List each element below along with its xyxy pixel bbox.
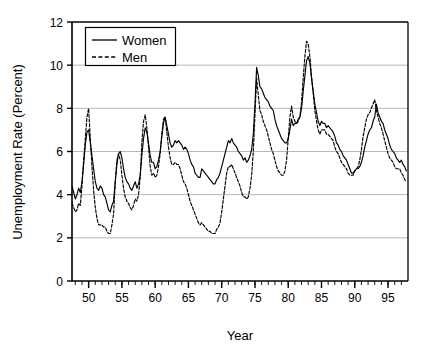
x-tick-label: 85	[315, 291, 329, 305]
legend-label-men: Men	[122, 50, 147, 65]
y-tick-label: 10	[50, 59, 64, 73]
y-tick-label: 2	[56, 231, 63, 245]
y-tick-label: 6	[56, 145, 63, 159]
chart-page: 024681012 50556065707580859095 Women Men…	[0, 0, 427, 354]
x-tick-label: 70	[215, 291, 229, 305]
y-tick-label: 0	[56, 275, 63, 289]
x-tick-label: 90	[348, 291, 362, 305]
x-tick-label: 95	[381, 291, 395, 305]
legend-label-women: Women	[122, 33, 167, 48]
y-tick-label: 8	[56, 102, 63, 116]
x-tick-label: 60	[148, 291, 162, 305]
x-tick-label: 50	[82, 291, 96, 305]
x-tick-label: 65	[182, 291, 196, 305]
unemployment-rate-line-chart: 024681012 50556065707580859095 Women Men…	[0, 0, 427, 354]
x-axis-title: Year	[227, 328, 254, 343]
y-tick-label: 12	[50, 16, 64, 30]
y-axis-title: Unemployment Rate (Percent)	[10, 64, 25, 240]
x-tick-label: 80	[282, 291, 296, 305]
chart-legend: Women Men	[86, 28, 176, 66]
x-tick-label: 55	[115, 291, 129, 305]
y-tick-label: 4	[56, 188, 63, 202]
chart-background	[0, 0, 427, 354]
x-tick-label: 75	[248, 291, 262, 305]
